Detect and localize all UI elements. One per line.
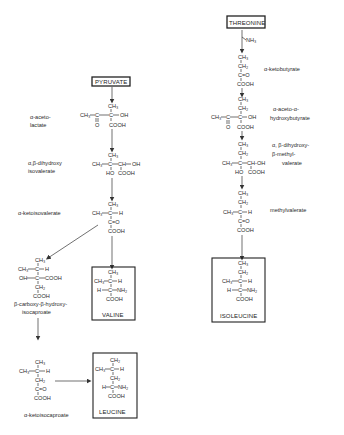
group-ch2: CH₂ xyxy=(238,199,248,205)
group-ch-oh: CH-OH xyxy=(247,160,265,166)
group-ch2: CH₂ xyxy=(238,269,248,275)
group-c: C xyxy=(35,368,39,374)
group-h: H xyxy=(120,366,124,372)
group-ch2: CH₂ xyxy=(110,357,120,363)
group-cooh: COOH xyxy=(236,296,253,302)
dihydroxymethylvalerate-structure: CH₃ CH₂ CH₃ C CH-OH HO COOH xyxy=(222,141,265,175)
group-cooh: COOH xyxy=(118,170,135,176)
dihydroxyisovalerate-structure: CH₃ CH₃ C CH OH HO COOH xyxy=(92,152,140,176)
group-c: C xyxy=(35,266,39,272)
group-c: C xyxy=(108,278,112,284)
label-ketoisovalerate: α-ketoisovalerate xyxy=(18,210,61,216)
group-ch3: CH₃ xyxy=(95,366,105,372)
group-oh: OH xyxy=(120,112,128,118)
ketobutyrate-structure: CH₃ CH₂ C =O COOH xyxy=(237,54,254,87)
carboxyhydroxyisocaproate-structure: CH₃ CH₃ C H OH C COOH CH₂ COOH xyxy=(18,257,62,299)
group-h: H xyxy=(45,266,49,272)
arrow-to-carboxyhydroxyisocaproate xyxy=(48,225,98,258)
group-ch3: CH₃ xyxy=(35,359,45,365)
pyruvate-node: PYRUVATE xyxy=(92,77,130,86)
group-nh2: NH₂ xyxy=(117,287,127,293)
group-cooh: COOH xyxy=(237,124,254,130)
nh3-label: NH₃ xyxy=(246,37,256,43)
group-h: H xyxy=(248,209,252,215)
group-c: C xyxy=(238,114,242,120)
group-ch3: CH₃ xyxy=(108,103,118,109)
group-ch3: CH₃ xyxy=(211,114,221,120)
label-ketoisocaproate: α-ketoisocaproate xyxy=(24,412,69,418)
leucine-node: CH₂ CH₃ C H CH₂ H C NH₂ COOH LEUCINE xyxy=(93,353,137,418)
valine-label: VALINE xyxy=(102,312,124,318)
group-ch: CH xyxy=(118,161,126,167)
label-carboxyhydroxy-1: β-carboxy-β-hydroxy- xyxy=(14,301,67,307)
ketoisovalerate-structure: CH₃ CH₃ C H C =O COOH xyxy=(92,201,125,234)
group-c: C xyxy=(108,161,112,167)
group-cooh: COOH xyxy=(109,122,126,128)
group-cooh: COOH xyxy=(45,275,62,281)
group-ch3: CH₃ xyxy=(238,96,248,102)
group-o: O xyxy=(95,122,100,128)
group-c: C xyxy=(238,278,242,284)
group-ho: HO xyxy=(235,169,244,175)
label-ketobutyrate: α-ketobutyrate xyxy=(264,66,300,72)
isoleucine-label: ISOLEUCINE xyxy=(220,313,257,319)
group-cooh: COOH xyxy=(248,169,265,175)
group-h: H xyxy=(46,368,50,374)
group-c: C xyxy=(95,112,99,118)
group-eq-o: =O xyxy=(242,72,250,78)
group-c: C xyxy=(238,209,242,215)
label-dihydroxymethylvalerate-3: valerate xyxy=(282,160,302,166)
group-ch2: CH₂ xyxy=(238,105,248,111)
group-cooh: COOH xyxy=(34,395,51,401)
group-ch3: CH₃ xyxy=(238,260,248,266)
group-eq-o: =O xyxy=(242,218,250,224)
group-c: C xyxy=(108,210,112,216)
group-ch3: CH₃ xyxy=(238,190,248,196)
label-acetolactate-1: α-aceto- xyxy=(30,114,51,120)
label-dihydroxymethylvalerate-1: α, β-dihydroxy- xyxy=(272,142,309,148)
group-ch2: CH₂ xyxy=(238,150,248,156)
group-o: O xyxy=(226,124,231,130)
ketoisocaproate-structure: CH₃ CH₃ C H CH₂ C =O COOH xyxy=(19,359,51,401)
isoleucine-node: CH₃ CH₂ CH₃ C H H C NH₂ COOH ISOLEUCINE xyxy=(212,258,265,322)
group-h: H xyxy=(97,287,101,293)
group-c: C xyxy=(226,114,230,120)
group-ch3: CH₃ xyxy=(19,368,29,374)
valine-node: CH₃ CH₃ C H H C NH₂ COOH VALINE xyxy=(92,267,135,320)
label-ketomethylvalerate-2: methylvalerate xyxy=(270,207,306,213)
acetolactate-structure: CH₃ CH₃ C C OH O COOH xyxy=(80,103,128,128)
label-acetolactate-2: lactate xyxy=(30,122,46,128)
group-ho: HO xyxy=(106,170,115,176)
group-c: C xyxy=(238,287,242,293)
label-dihydroxy-isovalerate-1: α,β-dihydroxy xyxy=(28,160,62,166)
group-eq-o: =O xyxy=(112,219,120,225)
group-c: C xyxy=(109,112,113,118)
group-ch3: CH₃ xyxy=(222,160,232,166)
group-c: C xyxy=(238,160,242,166)
group-ch2: CH₂ xyxy=(110,375,120,381)
group-cooh: COOH xyxy=(106,296,123,302)
threonine-node: THREONINE xyxy=(227,16,265,28)
group-ch3: CH₃ xyxy=(80,112,90,118)
group-h: H xyxy=(227,287,231,293)
label-carboxyhydroxy-2: isocaproate xyxy=(22,309,51,315)
group-oh: OH xyxy=(248,114,256,120)
group-h: H xyxy=(119,210,123,216)
group-ch3: CH₃ xyxy=(92,210,102,216)
leucine-label: LEUCINE xyxy=(99,409,126,415)
label-dihydroxy-isovalerate-2: isovalerate xyxy=(28,168,55,174)
group-oh: OH xyxy=(19,275,27,281)
group-ch3: CH₃ xyxy=(94,278,104,284)
group-ch3: CH₃ xyxy=(108,201,118,207)
group-h: H xyxy=(102,384,106,390)
pathway-diagram: PYRUVATE CH₃ CH₃ C C OH O COOH α-aceto- … xyxy=(0,0,344,435)
label-acetohydroxybutyrate-2: hydroxybutyrate xyxy=(270,115,310,121)
group-c: C xyxy=(110,384,114,390)
label-acetohydroxybutyrate-1: α-aceto-α- xyxy=(273,106,299,112)
group-cooh: COOH xyxy=(108,393,125,399)
group-ch2: CH₂ xyxy=(35,377,45,383)
group-ch2: CH₂ xyxy=(238,63,248,69)
group-c: C xyxy=(110,366,114,372)
group-ch3: CH₃ xyxy=(108,269,118,275)
group-nh2: NH₂ xyxy=(118,384,128,390)
